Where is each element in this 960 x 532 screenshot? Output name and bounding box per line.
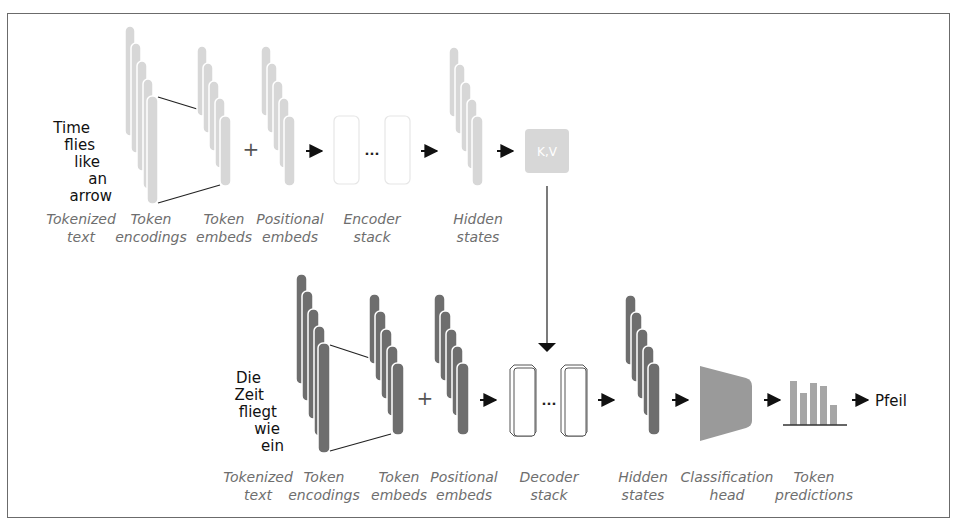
label-decoder-stack: Decoder	[520, 469, 580, 485]
label-token-encodings: encodings	[115, 229, 187, 245]
token-word: arrow	[70, 187, 112, 205]
label-positional-embeds: Positional	[430, 469, 498, 485]
token-word: wie	[254, 420, 280, 438]
token-predictions-bars	[783, 381, 847, 425]
decoder-token-encodings	[296, 274, 330, 453]
encoder-labels: Tokenized text Token encodings Token emb…	[46, 211, 503, 245]
projection-line	[330, 434, 391, 451]
label-classification-head: head	[710, 487, 745, 503]
decoder-row: Die Zeit fliegt wie ein +	[223, 274, 907, 503]
label-hidden-states: states	[622, 487, 665, 503]
label-positional-embeds: embeds	[436, 487, 492, 503]
label-token-embeds: embeds	[196, 229, 252, 245]
token-word: Time	[52, 119, 90, 137]
plus-sign: +	[417, 386, 434, 410]
token-word: an	[88, 170, 107, 188]
label-token-predictions: Token	[794, 469, 835, 485]
label-tokenized-text: Tokenized	[46, 211, 116, 227]
kv-cache-block: K,V	[525, 129, 569, 173]
decoder-labels: Tokenized text Token encodings Token emb…	[223, 469, 853, 503]
decoder-input-tokens: Die Zeit fliegt wie ein	[234, 369, 284, 455]
label-encoder-stack: Encoder	[343, 211, 401, 227]
label-positional-embeds: embeds	[262, 229, 318, 245]
plus-sign: +	[243, 137, 260, 161]
label-token-encodings: Token	[304, 469, 345, 485]
label-token-embeds: Token	[379, 469, 420, 485]
transformer-diagram: Time flies like an arrow +	[0, 0, 960, 532]
kv-label: K,V	[537, 145, 558, 159]
ellipsis: ...	[365, 143, 380, 158]
label-hidden-states: states	[457, 229, 500, 245]
label-decoder-stack: stack	[530, 487, 568, 503]
label-token-embeds: Token	[204, 211, 245, 227]
label-token-encodings: encodings	[288, 487, 360, 503]
encoder-token-encodings	[125, 26, 158, 204]
label-hidden-states: Hidden	[618, 469, 668, 485]
encoder-input-tokens: Time flies like an arrow	[52, 119, 112, 205]
decoder-hidden-states	[625, 295, 660, 435]
token-word: ein	[261, 437, 284, 455]
encoder-token-embeds	[197, 46, 231, 186]
output-token: Pfeil	[875, 392, 907, 410]
label-tokenized-text: text	[244, 487, 272, 503]
encoder-positional-embeds	[261, 46, 295, 186]
token-word: flies	[64, 136, 95, 154]
decoder-positional-embeds	[434, 294, 469, 435]
token-word: fliegt	[239, 403, 277, 421]
label-tokenized-text: text	[67, 229, 95, 245]
token-word: like	[74, 153, 100, 171]
ellipsis: ...	[542, 393, 557, 408]
label-positional-embeds: Positional	[256, 211, 324, 227]
label-hidden-states: Hidden	[453, 211, 503, 227]
label-token-embeds: embeds	[371, 487, 427, 503]
projection-line	[158, 185, 220, 203]
label-tokenized-text: Tokenized	[223, 469, 293, 485]
arrow-down-icon	[538, 343, 556, 352]
label-token-encodings: Token	[131, 211, 172, 227]
label-encoder-stack: stack	[353, 229, 391, 245]
token-word: Zeit	[234, 386, 264, 404]
label-token-predictions: predictions	[774, 487, 853, 503]
label-classification-head: Classification	[681, 469, 774, 485]
encoder-hidden-states	[449, 47, 483, 186]
decoder-token-embeds	[369, 294, 404, 435]
classification-head	[700, 366, 752, 441]
token-word: Die	[236, 369, 261, 387]
